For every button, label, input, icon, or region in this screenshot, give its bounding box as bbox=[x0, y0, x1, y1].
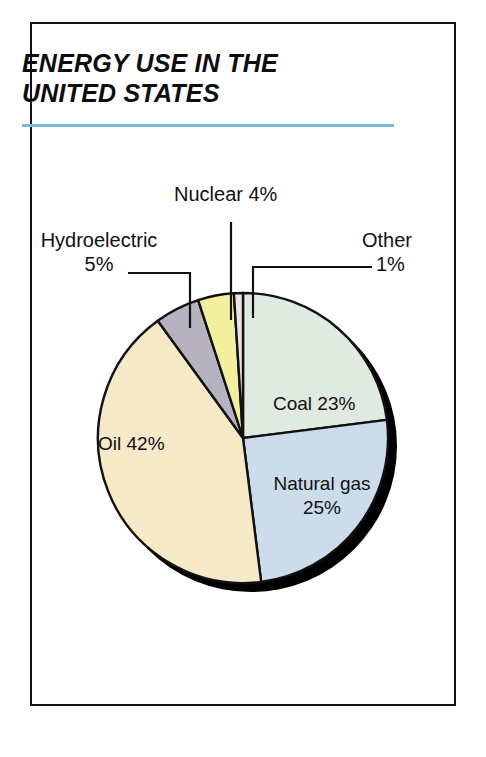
figure-root: ENERGY USE IN THE UNITED STATES Nucl bbox=[0, 0, 486, 757]
callout-label-other-value: 1% bbox=[362, 252, 452, 276]
callout-label-other-name: Other bbox=[362, 228, 452, 252]
callout-label-nuclear: Nuclear 4% bbox=[174, 182, 277, 206]
slice-label-oil-text: Oil 42% bbox=[98, 433, 165, 454]
chart-title-line-1: ENERGY USE IN THE bbox=[22, 48, 372, 78]
slice-label-natural-gas: Natural gas 25% bbox=[258, 472, 386, 520]
slice-label-natural-gas-value: 25% bbox=[258, 496, 386, 520]
callout-label-hydroelectric-value: 5% bbox=[28, 252, 170, 276]
chart-title-line-2: UNITED STATES bbox=[22, 78, 372, 108]
slice-label-oil: Oil 42% bbox=[98, 432, 165, 456]
callout-label-hydroelectric-name: Hydroelectric bbox=[28, 228, 170, 252]
callout-label-other: Other 1% bbox=[362, 228, 452, 276]
callout-label-hydroelectric: Hydroelectric 5% bbox=[28, 228, 170, 276]
slice-label-coal-text: Coal 23% bbox=[273, 393, 355, 414]
slice-label-natural-gas-name: Natural gas bbox=[258, 472, 386, 496]
callout-label-nuclear-text: Nuclear 4% bbox=[174, 183, 277, 205]
title-divider-rule bbox=[22, 124, 394, 127]
slice-label-coal: Coal 23% bbox=[273, 392, 355, 416]
chart-title: ENERGY USE IN THE UNITED STATES bbox=[22, 48, 372, 108]
